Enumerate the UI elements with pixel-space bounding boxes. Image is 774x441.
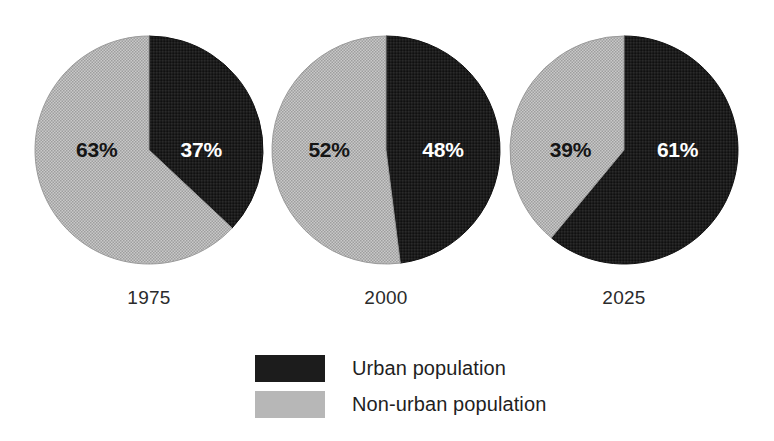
legend-label-urban: Urban population — [352, 357, 506, 380]
slice-percent-label-2025-urban: 61% — [657, 138, 698, 162]
slice-percent-label-2000-non-urban: 52% — [308, 138, 349, 162]
slice-percent-label-1975-urban: 37% — [181, 138, 222, 162]
pie-slice-2025-non-urban[interactable] — [510, 36, 624, 238]
pie-chart-figure: 37%63%48%52%61%39% 197520002025 Urban po… — [0, 0, 774, 441]
legend-item-urban[interactable]: Urban population — [255, 350, 546, 386]
slice-percent-label-2000-urban: 48% — [422, 138, 463, 162]
pie-slice-1975-urban[interactable] — [149, 36, 263, 228]
legend-item-non-urban[interactable]: Non-urban population — [255, 386, 546, 422]
slice-percent-label-2025-non-urban: 39% — [550, 138, 591, 162]
slice-percent-label-1975-non-urban: 63% — [76, 138, 117, 162]
legend-label-non-urban: Non-urban population — [352, 393, 546, 416]
slices-root — [35, 36, 738, 264]
year-label-1975: 1975 — [127, 287, 170, 309]
chart-legend: Urban population Non-urban population — [255, 350, 546, 422]
year-label-2000: 2000 — [364, 287, 407, 309]
legend-swatch-urban — [255, 355, 325, 382]
legend-swatch-non-urban — [255, 391, 325, 418]
year-label-2025: 2025 — [602, 287, 645, 309]
